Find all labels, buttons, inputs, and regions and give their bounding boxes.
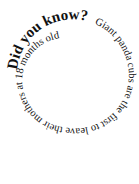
spiral-text: Did you know? Giant panda cubs are the f… bbox=[4, 6, 138, 137]
spiral-text-graphic: Did you know? Giant panda cubs are the f… bbox=[0, 0, 139, 184]
